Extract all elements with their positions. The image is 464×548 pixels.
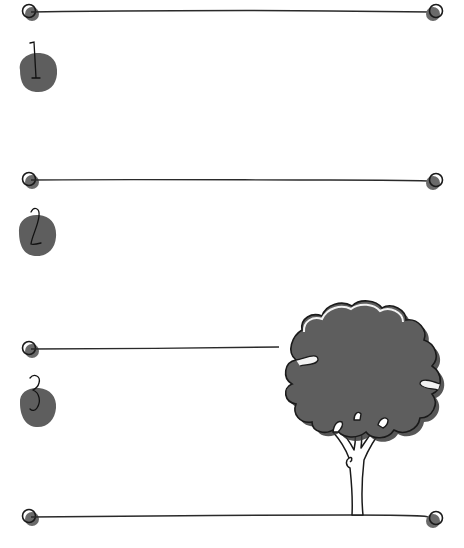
writing-line-1[interactable] — [23, 5, 443, 22]
line-stroke — [31, 11, 432, 12]
line-end-dot-icon — [426, 514, 440, 528]
line-stroke — [31, 347, 279, 349]
tree-icon — [286, 301, 445, 515]
line-start-dot-icon — [25, 344, 39, 358]
writing-line-4[interactable] — [23, 510, 443, 529]
line-start-dot-icon — [25, 7, 39, 21]
line-stroke — [31, 515, 432, 518]
worksheet-page: 1 2 3 — [0, 0, 464, 548]
writing-line-3[interactable] — [23, 342, 280, 359]
line-end-dot-icon — [426, 176, 440, 190]
badge-number-text: 3 — [0, 0, 10, 4]
line-start-dot-icon — [25, 512, 39, 526]
badge-blob-icon — [20, 53, 57, 92]
worksheet-drawing: 1 2 3 — [0, 0, 464, 548]
writing-line-2[interactable] — [23, 173, 443, 191]
line-start-dot-icon — [25, 175, 39, 189]
line-end-dot-icon — [426, 7, 440, 21]
number-badge-2: 2 — [0, 0, 56, 256]
line-stroke — [31, 180, 432, 181]
